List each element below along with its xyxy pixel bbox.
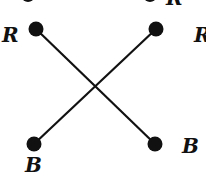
node-bottom-right <box>148 137 163 152</box>
label-bottom-left: B <box>24 153 42 177</box>
label-bottom-right: B <box>181 134 199 158</box>
diagram: R R R B B <box>0 0 206 182</box>
node-bottom-left <box>27 137 42 152</box>
crossing-graph: R R R B B <box>0 0 206 182</box>
node-top-left <box>29 22 44 37</box>
clipped-node-fragment-left <box>22 0 34 2</box>
label-top-left: R <box>1 23 19 47</box>
clipped-label-top: R <box>165 0 183 10</box>
node-top-right <box>149 22 164 37</box>
clipped-node-fragment-right <box>144 0 156 2</box>
label-top-right: R <box>193 23 206 47</box>
